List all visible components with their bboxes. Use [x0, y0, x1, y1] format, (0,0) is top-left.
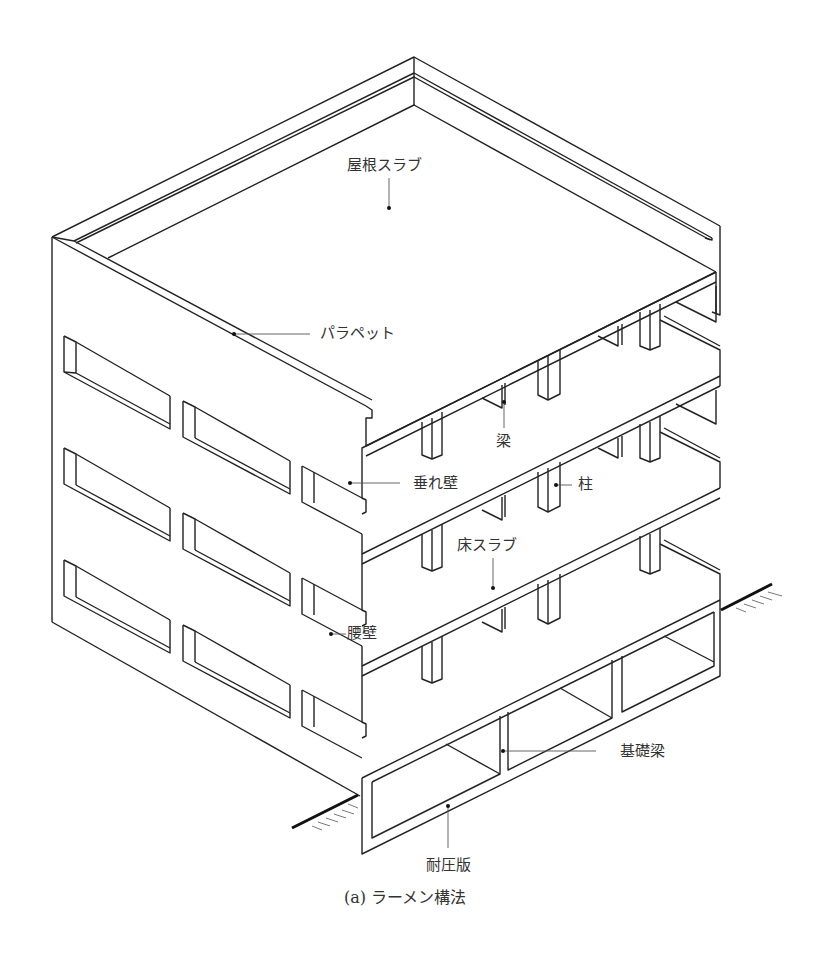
label-hanging-wall: 垂れ壁 [413, 476, 458, 491]
left-facade-wall [52, 237, 372, 796]
leader-lines [232, 178, 596, 848]
label-roof-slab: 屋根スラブ [347, 158, 422, 173]
roof-parapet [52, 57, 720, 446]
label-column: 柱 [578, 477, 593, 492]
label-mat-slab: 耐圧版 [426, 858, 471, 873]
ground-line-right [721, 584, 782, 612]
label-floor-slab: 床スラブ [457, 538, 517, 553]
foundation [362, 600, 720, 854]
label-parapet: パラペット [320, 326, 395, 341]
label-foundation-beam: 基礎梁 [620, 744, 665, 759]
ground-line-left [292, 795, 358, 830]
label-spandrel-wall: 腰壁 [347, 626, 377, 641]
figure-caption: (a) ラーメン構法 [344, 884, 466, 908]
label-beam: 梁 [496, 434, 511, 449]
